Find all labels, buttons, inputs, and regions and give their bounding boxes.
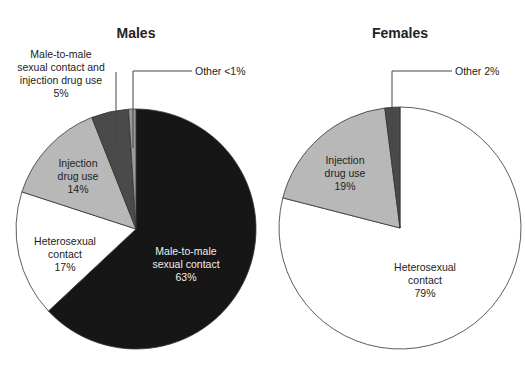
males-title: Males	[117, 25, 156, 41]
females-other-label: Other 2%	[455, 65, 499, 77]
males-mtm-idu-label-3: injection drug use	[20, 74, 102, 86]
males-pie	[16, 109, 256, 349]
males-mtm-label-2: sexual contact	[152, 258, 219, 270]
males-mtm-idu-label-2: sexual contact and	[17, 61, 105, 73]
females-idu-pct: 19%	[334, 180, 355, 192]
females-het-label-1: Heterosexual	[394, 261, 456, 273]
females-het-pct: 79%	[414, 287, 435, 299]
males-het-label-2: contact	[48, 248, 82, 260]
males-het-label-1: Heterosexual	[34, 235, 96, 247]
females-idu-label-2: drug use	[325, 167, 366, 179]
females-het-label-2: contact	[408, 274, 442, 286]
males-mtm-label-1: Male-to-male	[155, 245, 216, 257]
chart-canvas: Males Females Male-to-male sexual contac…	[0, 0, 525, 372]
males-other-label: Other <1%	[195, 65, 246, 77]
males-mtm-idu-pct: 5%	[53, 87, 68, 99]
males-idu-label-1: Injection	[58, 157, 97, 169]
males-idu-label-2: drug use	[58, 170, 99, 182]
males-idu-pct: 14%	[67, 183, 88, 195]
males-mtm-idu-label-1: Male-to-male	[30, 48, 91, 60]
males-mtm-pct: 63%	[175, 271, 196, 283]
females-title: Females	[372, 25, 428, 41]
males-het-pct: 17%	[54, 261, 75, 273]
females-pie	[279, 107, 521, 349]
females-idu-label-1: Injection	[325, 154, 364, 166]
